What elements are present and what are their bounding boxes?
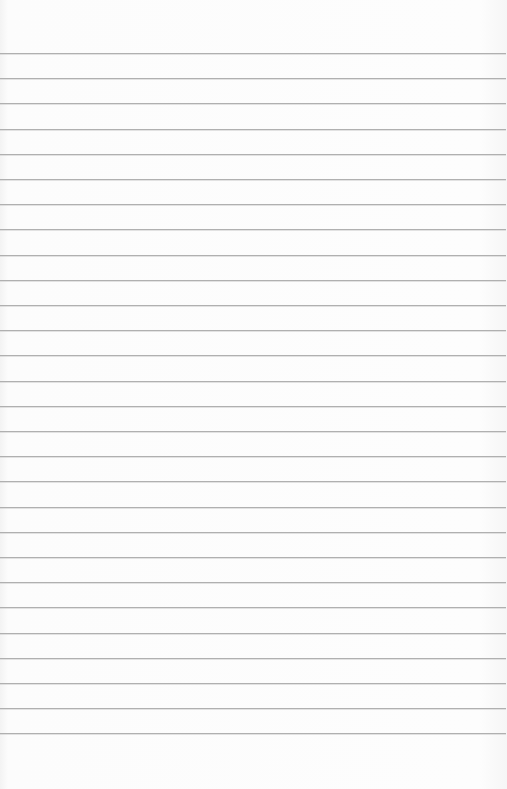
ruled-line: [0, 431, 506, 432]
ruled-line: [0, 733, 506, 734]
ruled-line: [0, 179, 506, 180]
ruled-line: [0, 607, 506, 608]
ruled-line: [0, 456, 506, 457]
ruled-line: [0, 78, 506, 79]
ruled-line: [0, 658, 506, 659]
ruled-line: [0, 481, 506, 482]
ruled-line: [0, 229, 506, 230]
ruled-line: [0, 507, 506, 508]
ruled-line: [0, 255, 506, 256]
ruled-line: [0, 129, 506, 130]
ruled-line: [0, 305, 506, 306]
ruled-line: [0, 532, 506, 533]
ruled-line: [0, 103, 506, 104]
ruled-line: [0, 53, 506, 54]
ruled-line: [0, 406, 506, 407]
ruled-line: [0, 355, 506, 356]
ruled-line: [0, 582, 506, 583]
lined-paper-sheet: [0, 0, 507, 789]
ruled-line: [0, 280, 506, 281]
ruled-line: [0, 204, 506, 205]
ruled-line: [0, 708, 506, 709]
ruled-line: [0, 557, 506, 558]
ruled-line: [0, 330, 506, 331]
ruled-line: [0, 154, 506, 155]
ruled-line: [0, 381, 506, 382]
ruled-line: [0, 633, 506, 634]
ruled-line: [0, 683, 506, 684]
